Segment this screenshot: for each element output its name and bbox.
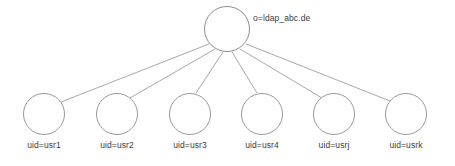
leaf-node-label-2: uid=usr2 bbox=[77, 140, 157, 150]
tree-edge bbox=[246, 44, 390, 101]
leaf-node-label-5: uid=usrj bbox=[294, 140, 374, 150]
tree-edge bbox=[130, 49, 215, 98]
ldap-tree-diagram: o=ldap_abc.deuid=usr1uid=usr2uid=usr3uid… bbox=[0, 0, 455, 166]
leaf-node-label-3: uid=usr3 bbox=[150, 140, 230, 150]
root-node-circle[interactable] bbox=[204, 6, 250, 52]
root-node-label: o=ldap_abc.de bbox=[253, 13, 310, 23]
leaf-node-circle-5[interactable] bbox=[313, 93, 355, 135]
leaf-node-label-6: uid=usrk bbox=[366, 140, 446, 150]
leaf-node-circle-1[interactable] bbox=[23, 93, 65, 135]
leaf-node-circle-4[interactable] bbox=[241, 93, 283, 135]
leaf-node-label-4: uid=usr4 bbox=[222, 140, 302, 150]
tree-edge bbox=[232, 52, 257, 93]
leaf-node-label-1: uid=usr1 bbox=[4, 140, 84, 150]
leaf-node-circle-2[interactable] bbox=[96, 93, 138, 135]
leaf-node-circle-6[interactable] bbox=[385, 93, 427, 135]
tree-edge bbox=[240, 49, 322, 98]
leaf-node-circle-3[interactable] bbox=[169, 93, 211, 135]
